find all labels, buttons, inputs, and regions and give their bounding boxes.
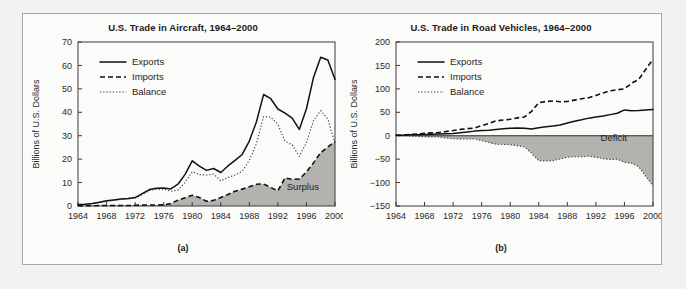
chart-title-b: U.S. Trade in Road Vehicles, 1964–2000 <box>341 22 661 33</box>
x-tick-label: 1988 <box>239 211 259 221</box>
region-annotation-deficit: Deficit <box>601 132 628 143</box>
y-tick-label: 30 <box>62 131 72 141</box>
x-tick-label: 1996 <box>614 211 634 221</box>
y-tick-label: 50 <box>62 84 72 94</box>
plot-group: −150−100−5005010015020019641968197219761… <box>349 37 661 221</box>
legend-label-balance: Balance <box>132 86 166 97</box>
y-tick-label: −50 <box>375 154 390 164</box>
plot-border <box>396 42 653 206</box>
chart-caption-a: (a) <box>23 243 343 253</box>
chart-panel-a: U.S. Trade in Aircraft, 1964–2000 010203… <box>23 14 343 264</box>
y-tick-label: 200 <box>375 37 390 47</box>
surplus-fill-region <box>78 142 335 206</box>
x-tick-label: 1992 <box>268 211 288 221</box>
chart-panel-b: U.S. Trade in Road Vehicles, 1964–2000 −… <box>341 14 661 264</box>
chart-svg-b[interactable]: −150−100−5005010015020019641968197219761… <box>341 34 661 244</box>
y-tick-label: 40 <box>62 107 72 117</box>
x-tick-label: 1964 <box>68 211 88 221</box>
legend-label-imports: Imports <box>132 71 164 82</box>
x-tick-label: 1972 <box>443 211 463 221</box>
y-axis-label: Billions of U.S. Dollars <box>31 79 41 169</box>
x-tick-label: 1996 <box>296 211 316 221</box>
region-annotation-surplus: Surplus <box>287 181 319 192</box>
y-tick-label: 100 <box>375 84 390 94</box>
x-tick-label: 1972 <box>125 211 145 221</box>
chart-title-a: U.S. Trade in Aircraft, 1964–2000 <box>23 22 343 33</box>
x-tick-label: 2000 <box>643 211 661 221</box>
x-tick-label: 1980 <box>182 211 202 221</box>
chart-caption-b: (b) <box>341 243 661 253</box>
figure-frame: U.S. Trade in Aircraft, 1964–2000 010203… <box>22 13 662 265</box>
x-tick-label: 1976 <box>154 211 174 221</box>
y-tick-label: 70 <box>62 37 72 47</box>
x-tick-label: 1984 <box>211 211 231 221</box>
x-tick-label: 1984 <box>529 211 549 221</box>
y-tick-label: 10 <box>62 178 72 188</box>
legend-label-exports: Exports <box>132 56 164 67</box>
legend-label-imports: Imports <box>450 71 482 82</box>
legend-label-exports: Exports <box>450 56 482 67</box>
y-tick-label: 50 <box>380 107 390 117</box>
y-tick-label: 20 <box>62 154 72 164</box>
y-tick-label: 60 <box>62 61 72 71</box>
series-line-imports[interactable] <box>396 59 653 135</box>
x-tick-label: 1964 <box>386 211 406 221</box>
y-tick-label: −150 <box>370 201 390 211</box>
x-tick-label: 1968 <box>415 211 435 221</box>
legend-label-balance: Balance <box>450 86 484 97</box>
y-tick-label: 0 <box>385 131 390 141</box>
x-tick-label: 1980 <box>500 211 520 221</box>
y-axis-label: Billions of U.S. Dollars <box>349 79 359 169</box>
y-tick-label: −100 <box>370 178 390 188</box>
figure-page: U.S. Trade in Aircraft, 1964–2000 010203… <box>0 0 686 289</box>
x-tick-label: 1992 <box>586 211 606 221</box>
x-tick-label: 1976 <box>472 211 492 221</box>
chart-svg-a[interactable]: 0102030405060701964196819721976198019841… <box>23 34 343 244</box>
y-tick-label: 0 <box>67 201 72 211</box>
y-tick-label: 150 <box>375 61 390 71</box>
plot-group: 0102030405060701964196819721976198019841… <box>31 37 343 221</box>
x-tick-label: 1988 <box>557 211 577 221</box>
x-tick-label: 1968 <box>97 211 117 221</box>
